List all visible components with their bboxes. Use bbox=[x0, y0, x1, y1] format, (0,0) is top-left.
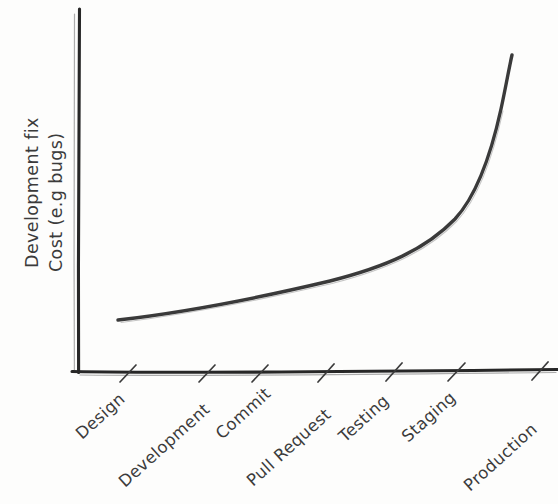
y-axis-line bbox=[78, 9, 79, 373]
x-axis-label-design: Design bbox=[72, 389, 129, 443]
x-axis-label-testing: Testing bbox=[334, 391, 393, 446]
hand-drawn-cost-of-fix-chart: Development fix Cost (e.g bugs) Design D… bbox=[0, 0, 558, 504]
y-axis-label: Development fix Cost (e.g bugs) bbox=[22, 117, 66, 272]
cost-curve bbox=[118, 55, 512, 323]
y-axis-label-line-1: Development fix bbox=[22, 117, 42, 268]
x-axis-line bbox=[72, 370, 558, 373]
x-axis-label-production: Production bbox=[460, 419, 541, 495]
x-axis-label-pull-request: Pull Request bbox=[243, 405, 335, 490]
cost-curve-sketch-echo bbox=[121, 111, 503, 323]
y-axis bbox=[74, 9, 79, 373]
x-axis-label-development: Development bbox=[115, 399, 214, 490]
x-axis-label-staging: Staging bbox=[398, 388, 460, 446]
y-axis-label-line-2: Cost (e.g bugs) bbox=[46, 132, 66, 272]
x-axis bbox=[72, 370, 558, 376]
chart-canvas: Development fix Cost (e.g bugs) Design D… bbox=[0, 0, 558, 504]
x-axis-labels: Design Development Commit Pull Request T… bbox=[72, 384, 541, 495]
x-axis-label-commit: Commit bbox=[212, 384, 275, 443]
cost-curve-line bbox=[118, 55, 512, 320]
